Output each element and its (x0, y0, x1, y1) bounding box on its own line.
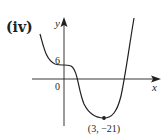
origin-label: 0 (55, 81, 60, 92)
x-axis (32, 76, 161, 83)
y-axis-label: y (54, 17, 60, 29)
x-axis-label: x (151, 81, 157, 93)
function-curve (40, 18, 134, 118)
minimum-point-marker (102, 116, 106, 120)
y-intercept-label: 6 (55, 55, 60, 66)
minimum-point-label: (3, −21) (88, 123, 120, 135)
graph-figure: (iv) y x 6 0 (3, −21) (0, 0, 167, 135)
y-axis (61, 17, 68, 126)
